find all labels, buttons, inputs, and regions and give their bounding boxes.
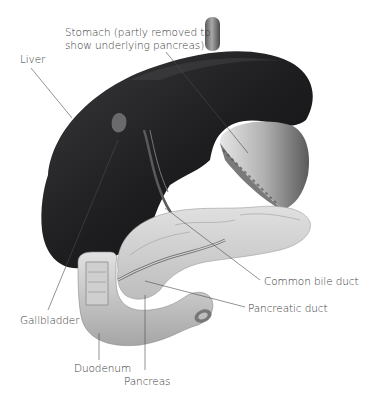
gallbladder-label: Gallbladder [20, 314, 79, 327]
anatomy-diagram: Stomach (partly removed to show underlyi… [0, 0, 368, 401]
duodenum-label: Duodenum [74, 362, 131, 375]
stomach-label-line1: Stomach (partly removed to [65, 26, 211, 39]
stomach-label-line2: show underlying pancreas) [65, 39, 211, 52]
anatomy-illustration [0, 0, 368, 401]
common-bile-duct-label: Common bile duct [264, 275, 359, 288]
pancreas-label: Pancreas [124, 375, 170, 388]
pancreatic-duct-label: Pancreatic duct [248, 302, 328, 315]
liver-label: Liver [20, 53, 45, 66]
stomach-label: Stomach (partly removed to show underlyi… [65, 26, 211, 51]
liver-leader [31, 68, 72, 118]
